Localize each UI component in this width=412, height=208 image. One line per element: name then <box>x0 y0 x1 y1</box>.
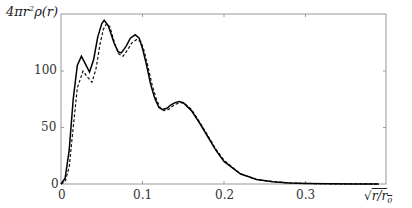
xtick-label-0: 0 <box>58 188 66 202</box>
dashed-series-line <box>61 24 379 185</box>
ytick-label-50: 50 <box>41 120 56 134</box>
solid-series-line <box>61 20 379 184</box>
ytick-label-100: 100 <box>34 63 57 77</box>
xtick-label-0.3: 0.3 <box>296 188 315 202</box>
x-axis-label: √r/r0 <box>364 189 392 205</box>
plot-area <box>0 0 412 208</box>
xtick-label-0.1: 0.1 <box>133 188 152 202</box>
axis-ticks <box>61 14 386 184</box>
xtick-label-0.2: 0.2 <box>215 188 234 202</box>
axes-frame <box>61 14 386 184</box>
